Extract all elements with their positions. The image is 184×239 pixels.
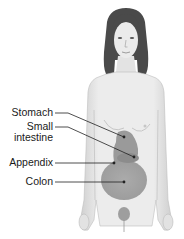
label-colon: Colon — [26, 176, 53, 187]
pubic-area — [118, 207, 130, 221]
colon-dot — [123, 181, 126, 184]
neck — [116, 56, 136, 72]
label-appendix: Appendix — [9, 157, 53, 168]
right-nipple — [144, 125, 147, 128]
label-small-intestine-line2: intestine — [14, 132, 53, 143]
appendix-dot — [113, 162, 116, 165]
right-hand — [163, 214, 173, 230]
colon-region — [101, 160, 147, 200]
left-hand — [79, 214, 89, 230]
small-intestine-dot — [133, 156, 136, 159]
stomach-dot — [123, 136, 126, 139]
right-eye — [130, 37, 134, 39]
left-eye — [118, 37, 122, 39]
label-stomach: Stomach — [12, 107, 53, 118]
